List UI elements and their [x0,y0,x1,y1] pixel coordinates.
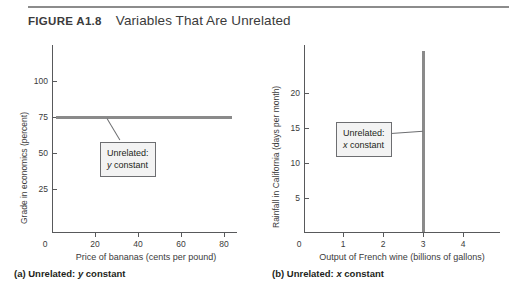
x-tick-b-3 [423,233,424,237]
caption-a-suffix: constant [86,268,126,279]
y-axis-title-a: Grade in economics (percent) [19,112,29,224]
x-tick-label-a-0: 0 [43,239,48,249]
figure-header: FIGURE A1.8 Variables That Are Unrelated [28,13,291,31]
x-tick-b-1 [343,233,344,237]
callout-b-variable: x [343,140,348,150]
x-tick-label-a-40: 40 [133,239,142,249]
callout-b-line2-suffix: constant [350,140,384,150]
x-tick-a-20 [95,233,96,237]
callout-b-line2: x constant [343,139,385,151]
caption-a-prefix: (a) Unrelated: [14,268,75,279]
chart-panel-a: 100 75 50 25 0 20 40 60 80 Price of bana… [0,36,258,284]
x-tick-label-b-2: 2 [381,239,386,249]
x-tick-label-b-3: 3 [421,239,426,249]
y-tick-b-20 [305,93,309,94]
x-tick-b-2 [383,233,384,237]
callout-leader-b [391,131,423,134]
callout-a-line2-suffix: constant [114,160,148,170]
panel-caption-b: (b) Unrelated: x constant [272,268,384,279]
y-tick-a-25 [53,189,57,190]
callout-a-line1: Unrelated: [107,147,149,159]
x-tick-label-b-0: 0 [297,239,302,249]
panel-caption-a: (a) Unrelated: y constant [14,268,125,279]
plot-area-b: 20 15 10 5 0 1 2 3 4 Output of French wi… [258,36,517,284]
header-divider [28,6,509,8]
callout-b: Unrelated: x constant [336,122,392,157]
y-tick-b-10 [305,163,309,164]
x-axis-title-b: Output of French wine (billions of gallo… [319,252,485,262]
x-tick-label-a-20: 20 [90,239,99,249]
plot-area-a: 100 75 50 25 0 20 40 60 80 Price of bana… [0,36,258,284]
x-tick-a-40 [138,233,139,237]
y-axis-title-b: Rainfall in California (days per month) [271,86,281,228]
y-tick-b-15 [305,128,309,129]
y-tick-a-50 [53,153,57,154]
x-axis-line-b [304,232,500,233]
callout-a-variable: y [107,160,112,170]
x-axis-line-a [52,232,237,233]
caption-b-suffix: constant [344,268,384,279]
caption-b-prefix: (b) Unrelated: [272,268,334,279]
y-tick-label-b-15: 15 [278,123,300,133]
figure-number: FIGURE A1.8 [28,15,102,27]
x-tick-label-b-1: 1 [341,239,346,249]
x-tick-label-b-4: 4 [461,239,466,249]
x-tick-b-4 [463,233,464,237]
y-axis-line-b [304,45,305,232]
caption-a-variable: y [78,268,83,279]
callout-a-line2: y constant [107,159,149,171]
y-tick-label-a-100: 100 [24,76,48,86]
x-axis-title-a: Price of bananas (cents per pound) [76,252,217,262]
y-tick-a-100 [53,81,57,82]
y-axis-line-a [52,45,53,232]
x-tick-a-80 [224,233,225,237]
x-tick-label-a-80: 80 [219,239,228,249]
callout-leader-a [107,118,121,140]
data-line-y-constant [56,116,232,119]
x-tick-label-a-60: 60 [176,239,185,249]
y-tick-label-b-5: 5 [278,193,300,203]
y-tick-label-b-20: 20 [278,88,300,98]
caption-b-variable: x [336,268,341,279]
y-tick-label-b-10: 10 [278,158,300,168]
x-tick-a-60 [181,233,182,237]
y-tick-b-5 [305,198,309,199]
chart-panel-b: 20 15 10 5 0 1 2 3 4 Output of French wi… [258,36,517,284]
data-line-x-constant [422,51,425,232]
figure-title: Variables That Are Unrelated [116,13,291,28]
callout-a: Unrelated: y constant [100,142,156,177]
callout-b-line1: Unrelated: [343,127,385,139]
